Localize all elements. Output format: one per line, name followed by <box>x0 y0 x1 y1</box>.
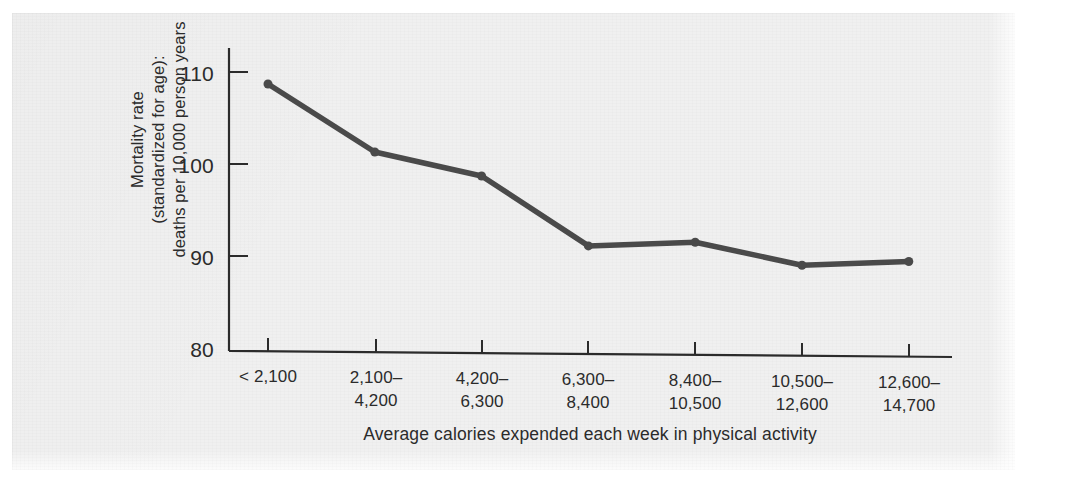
data-point-0 <box>264 80 273 89</box>
data-point-3 <box>584 241 593 250</box>
x-axis-line <box>229 351 952 357</box>
x-tick-label-6: 12,600– 14,700 <box>844 371 974 417</box>
mortality-rate-line <box>268 84 909 265</box>
data-point-6 <box>904 257 913 266</box>
data-point-1 <box>370 148 379 157</box>
x-tick-label-6-line-2: 14,700 <box>844 394 974 417</box>
data-point-4 <box>691 238 700 247</box>
x-axis-title: Average calories expended each week in p… <box>230 424 950 445</box>
data-point-2 <box>477 172 486 181</box>
line-chart-figure: 110 100 90 80 Mortality rate (standardiz… <box>0 0 1071 495</box>
x-tick-label-6-line-1: 12,600– <box>844 371 974 394</box>
plot-area <box>0 0 1071 495</box>
data-point-5 <box>798 261 807 270</box>
mortality-rate-markers <box>264 80 914 270</box>
